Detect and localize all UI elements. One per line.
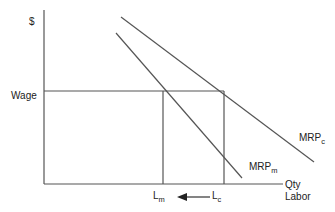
- lc-label: Lc: [212, 190, 222, 204]
- labor-market-diagram: $ Wage Qty Labor MRPc MRPm Lm Lc: [0, 0, 335, 212]
- lm-label: Lm: [153, 190, 165, 204]
- wage-label: Wage: [11, 90, 37, 101]
- arrow-left-icon: [177, 193, 187, 201]
- mrp-m-curve: [116, 33, 242, 178]
- mrp-c-curve: [121, 17, 314, 162]
- x-axis-label-qty: Qty: [285, 179, 301, 190]
- mrp-c-label: MRPc: [299, 132, 325, 146]
- mrp-m-label: MRPm: [249, 161, 277, 175]
- x-axis-label-labor: Labor: [285, 191, 311, 202]
- y-axis-label: $: [29, 16, 35, 27]
